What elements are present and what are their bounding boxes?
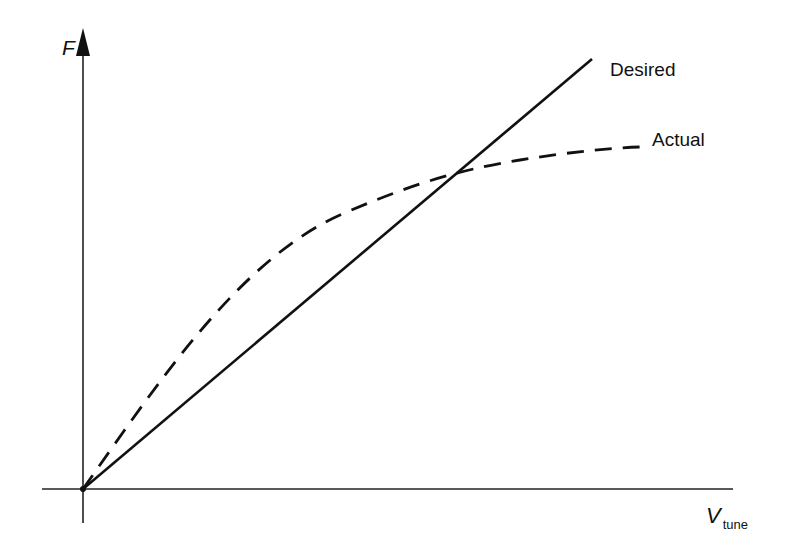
- desired-label: Desired: [610, 59, 675, 81]
- x-axis-label-subscript: tune: [723, 517, 748, 532]
- actual-label: Actual: [652, 129, 705, 151]
- vco-tuning-diagram: [0, 0, 792, 557]
- origin-point: [80, 486, 86, 492]
- desired-line: [83, 59, 592, 489]
- x-axis-label: Vtune: [706, 503, 748, 532]
- y-axis-label: F: [62, 36, 75, 60]
- actual-curve: [83, 147, 640, 489]
- x-axis-label-main: V: [706, 503, 721, 528]
- y-axis-arrow-icon: [76, 28, 90, 56]
